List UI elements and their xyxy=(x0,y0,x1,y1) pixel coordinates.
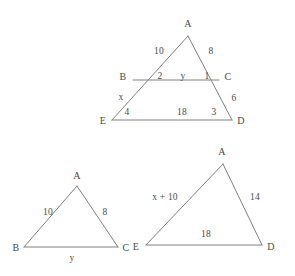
vertex-label-C-main-nested-triangle: C xyxy=(225,72,232,82)
measure-label-angle-E-main-nested-triangle: 4 xyxy=(125,108,130,118)
vertex-label-A-large-triangle-aed: A xyxy=(218,147,225,157)
vertex-label-E-main-nested-triangle: E xyxy=(100,116,106,126)
measure-label-AB-main-nested-triangle: 10 xyxy=(154,47,164,57)
edge-A-C xyxy=(77,186,118,247)
vertex-label-A-small-triangle-abc: A xyxy=(73,171,80,181)
vertex-label-B-main-nested-triangle: B xyxy=(120,72,127,82)
measure-label-AD-large-triangle-aed: 14 xyxy=(250,193,260,203)
geometry-svg-canvas xyxy=(0,0,295,276)
vertex-label-E-large-triangle-aed: E xyxy=(133,242,139,252)
edge-A-E xyxy=(146,164,223,245)
measure-label-AC-main-nested-triangle: 8 xyxy=(209,47,214,57)
measure-label-ED-main-nested-triangle: 18 xyxy=(177,108,187,118)
vertex-label-B-small-triangle-abc: B xyxy=(13,243,20,253)
geometry-figure-page: { "figure": { "stroke_color": "#808080",… xyxy=(0,0,295,276)
vertex-label-A-main-nested-triangle: A xyxy=(184,19,191,29)
vertex-label-C-small-triangle-abc: C xyxy=(123,243,130,253)
measure-label-BC-small-triangle-abc: y xyxy=(70,254,75,264)
edge-A-D xyxy=(223,164,262,245)
measure-label-angle-C-main-nested-triangle: 1 xyxy=(205,72,210,82)
measure-label-AB-small-triangle-abc: 10 xyxy=(43,208,53,218)
vertex-label-D-main-nested-triangle: D xyxy=(237,116,244,126)
measure-label-BC-main-nested-triangle: y xyxy=(181,72,186,82)
measure-label-angle-D-main-nested-triangle: 3 xyxy=(212,108,217,118)
measure-label-angle-B-main-nested-triangle: 2 xyxy=(158,72,163,82)
measure-label-AE-large-triangle-aed: x + 10 xyxy=(152,193,178,203)
measure-label-ED-large-triangle-aed: 18 xyxy=(201,230,211,240)
measure-label-CD-main-nested-triangle: 6 xyxy=(232,94,237,104)
vertex-label-D-large-triangle-aed: D xyxy=(267,242,274,252)
measure-label-AC-small-triangle-abc: 8 xyxy=(103,208,108,218)
figure-line-group xyxy=(24,36,262,247)
measure-label-BE-main-nested-triangle: x xyxy=(119,93,124,103)
